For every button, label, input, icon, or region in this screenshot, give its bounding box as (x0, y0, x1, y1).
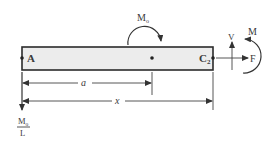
beam-diagram: A C2 Mo Mo L a x V F M (0, 0, 278, 145)
shear-force-label: V (228, 32, 235, 42)
right-end-point (211, 56, 215, 60)
dimension-a-label: a (81, 77, 86, 88)
label-A: A (27, 52, 35, 64)
reaction-denominator: L (20, 128, 25, 138)
reaction-numerator: Mo (18, 116, 29, 127)
moment-application-point (150, 56, 154, 60)
dimension-x-label: x (114, 95, 120, 106)
applied-moment-label: Mo (137, 12, 149, 24)
applied-moment-arrow (128, 26, 161, 45)
left-end-point (20, 56, 24, 60)
beam (22, 47, 213, 70)
internal-moment-label: M (248, 26, 257, 37)
axial-force-label: F (250, 53, 256, 64)
